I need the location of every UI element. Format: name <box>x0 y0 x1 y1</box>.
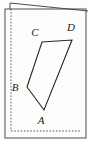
vertex-label-d: D <box>66 21 75 33</box>
vertex-label-a: A <box>37 114 45 126</box>
vertex-label-c: C <box>31 26 39 38</box>
vertex-label-b: B <box>12 81 19 93</box>
page-background <box>0 0 90 142</box>
figure-canvas: A B C D <box>0 0 90 142</box>
geometry-figure: A B C D <box>0 0 90 142</box>
